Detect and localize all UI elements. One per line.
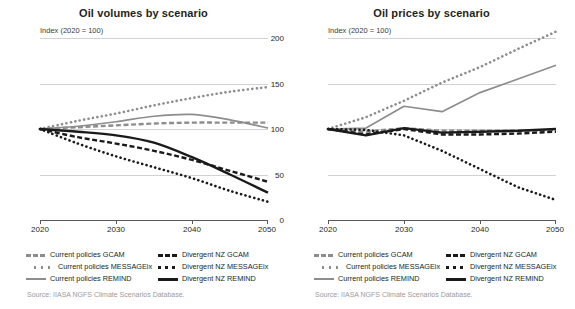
plot-area <box>40 38 268 220</box>
legend-row: Current policies GCAM Divergent NZ GCAM <box>26 249 281 261</box>
dotted-line-swatch-icon <box>158 263 178 271</box>
x-tick-mark <box>192 220 193 224</box>
legend-row: Current policies GCAM Divergent NZ GCAM <box>314 249 569 261</box>
legend-row: Current policies REMIND Divergent NZ REM… <box>314 273 569 285</box>
dashed-line-swatch-icon <box>446 251 466 259</box>
legend-label: Current policies MESSAGEix <box>58 263 152 270</box>
x-axis-line <box>40 220 268 221</box>
legend-label: Current policies REMIND <box>338 275 420 282</box>
x-tick-label: 2020 <box>308 226 348 234</box>
legend-item-divergent-nz-gcam: Divergent NZ GCAM <box>158 251 281 259</box>
series-lines <box>40 38 268 220</box>
legend-label: Current policies REMIND <box>50 275 132 282</box>
x-tick-label: 2050 <box>535 226 575 234</box>
panel-title: Oil volumes by scenario <box>0 7 287 19</box>
series-line <box>328 129 556 200</box>
x-tick-label: 2040 <box>172 226 212 234</box>
legend-row: Current policies MESSAGEix Divergent NZ … <box>26 261 281 273</box>
legend-item-divergent-nz-gcam: Divergent NZ GCAM <box>446 251 569 259</box>
legend-label: Divergent NZ GCAM <box>182 251 249 258</box>
dashed-line-swatch-icon <box>26 251 46 259</box>
legend-row: Current policies MESSAGEix Divergent NZ … <box>314 261 569 273</box>
legend-label: Current policies GCAM <box>50 251 125 258</box>
legend-label: Divergent NZ MESSAGEix <box>182 263 268 270</box>
legend-label: Divergent NZ MESSAGEix <box>470 263 556 270</box>
legend-item-current-policies-remind: Current policies REMIND <box>26 275 158 283</box>
legend-item-divergent-nz-remind: Divergent NZ REMIND <box>158 275 281 283</box>
dotted-line-swatch-icon <box>322 263 342 271</box>
legend-label: Divergent NZ REMIND <box>182 275 256 282</box>
dotted-line-swatch-icon <box>446 263 466 271</box>
x-tick-label: 2030 <box>384 226 424 234</box>
dotted-line-swatch-icon <box>34 263 54 271</box>
x-tick-mark <box>116 220 117 224</box>
series-line <box>40 129 268 182</box>
x-tick-mark <box>480 220 481 224</box>
y-tick-label: 0 <box>254 217 284 225</box>
x-tick-mark <box>328 220 329 224</box>
legend-item-current-policies-messageix: Current policies MESSAGEix <box>314 263 446 271</box>
x-tick-mark <box>40 220 41 224</box>
y-tick-label: 100 <box>254 126 284 134</box>
legend-item-divergent-nz-remind: Divergent NZ REMIND <box>446 275 569 283</box>
x-tick-label: 2030 <box>96 226 136 234</box>
panel-oil-prices: Oil prices by scenario Index (2020 = 100… <box>288 0 575 309</box>
series-line <box>328 32 556 129</box>
legend-item-divergent-nz-messageix: Divergent NZ MESSAGEix <box>446 263 569 271</box>
solid-line-swatch-icon <box>314 275 334 283</box>
y-tick-label: 50 <box>254 172 284 180</box>
x-tick-label: 2040 <box>460 226 500 234</box>
dashed-line-swatch-icon <box>314 251 334 259</box>
panel-title: Oil prices by scenario <box>288 7 575 19</box>
legend-item-current-policies-gcam: Current policies GCAM <box>26 251 158 259</box>
solid-line-swatch-icon <box>26 275 46 283</box>
legend: Current policies GCAM Divergent NZ GCAM … <box>314 249 569 285</box>
legend-item-current-policies-remind: Current policies REMIND <box>314 275 446 283</box>
x-tick-mark <box>404 220 405 224</box>
y-tick-label: 150 <box>254 81 284 89</box>
legend-label: Current policies MESSAGEix <box>346 263 440 270</box>
solid-line-swatch-icon <box>158 275 178 283</box>
legend-item-divergent-nz-messageix: Divergent NZ MESSAGEix <box>158 263 281 271</box>
y-tick-label: 200 <box>254 35 284 43</box>
series-lines <box>328 38 556 220</box>
legend: Current policies GCAM Divergent NZ GCAM … <box>26 249 281 285</box>
legend-row: Current policies REMIND Divergent NZ REM… <box>26 273 281 285</box>
dashed-line-swatch-icon <box>158 251 178 259</box>
legend-label: Divergent NZ REMIND <box>470 275 544 282</box>
panel-oil-volumes: Oil volumes by scenario Index (2020 = 10… <box>0 0 287 309</box>
y-axis-note: Index (2020 = 100) <box>328 26 391 35</box>
legend-label: Current policies GCAM <box>338 251 413 258</box>
figure-root: Oil volumes by scenario Index (2020 = 10… <box>0 0 575 309</box>
legend-item-current-policies-messageix: Current policies MESSAGEix <box>26 263 158 271</box>
source-note: Source: IIASA NGFS Climate Scenarios Dat… <box>315 291 473 298</box>
x-tick-label: 2050 <box>247 226 287 234</box>
legend-label: Divergent NZ GCAM <box>470 251 537 258</box>
x-tick-mark <box>555 220 556 224</box>
x-axis-line <box>328 220 556 221</box>
x-tick-label: 2020 <box>20 226 60 234</box>
series-line <box>40 129 268 193</box>
legend-item-current-policies-gcam: Current policies GCAM <box>314 251 446 259</box>
y-axis-note: Index (2020 = 100) <box>40 26 103 35</box>
plot-area <box>328 38 556 220</box>
solid-line-swatch-icon <box>446 275 466 283</box>
source-note: Source: IIASA NGFS Climate Scenarios Dat… <box>27 291 185 298</box>
series-line <box>40 129 268 202</box>
